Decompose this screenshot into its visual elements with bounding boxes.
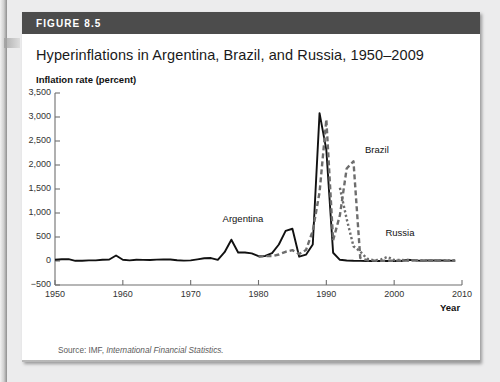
page-shadow: [4, 38, 20, 48]
x-tick-label: 1950: [35, 289, 75, 299]
y-tick-label: 3,000: [11, 111, 51, 121]
series-line-argentina: [55, 113, 455, 261]
page-edge: [0, 0, 7, 382]
y-tick-label: 0: [11, 255, 51, 265]
x-tick-label: 1970: [171, 289, 211, 299]
x-tick-label: 2000: [374, 289, 414, 299]
figure-title: Hyperinflations in Argentina, Brazil, an…: [22, 34, 480, 63]
chart-plot-area: 3,5003,0002,5002,0001,5001,0005000−500 1…: [22, 85, 480, 320]
x-axis-title: Year: [440, 302, 460, 313]
y-tick-label: 3,500: [11, 87, 51, 97]
figure-card: FIGURE 8.5 Hyperinflations in Argentina,…: [22, 12, 480, 362]
series-line-brazil: [259, 120, 456, 261]
annotation-brazil: Brazil: [365, 144, 389, 155]
source-prefix: Source: IMF,: [58, 346, 106, 355]
y-tick-label: −500: [11, 279, 51, 289]
x-tick-label: 1990: [306, 289, 346, 299]
annotation-argentina: Argentina: [223, 213, 264, 224]
figure-number-label: FIGURE 8.5: [22, 18, 101, 29]
chart-series: [55, 113, 455, 261]
y-tick-label: 500: [11, 231, 51, 241]
x-tick-label: 2010: [442, 289, 482, 299]
y-axis-title: Inflation rate (percent): [22, 63, 480, 85]
y-tick-label: 2,500: [11, 135, 51, 145]
page-bottom-rule: [22, 360, 480, 362]
chart-svg: [22, 85, 480, 320]
x-tick-label: 1960: [103, 289, 143, 299]
y-tick-label: 1,000: [11, 207, 51, 217]
y-tick-label: 2,000: [11, 159, 51, 169]
annotation-russia: Russia: [385, 227, 414, 238]
y-tick-label: 1,500: [11, 183, 51, 193]
x-tick-label: 1980: [239, 289, 279, 299]
figure-header-bar: FIGURE 8.5: [22, 12, 480, 34]
figure-source: Source: IMF, International Financial Sta…: [58, 346, 224, 355]
source-publication: International Financial Statistics.: [106, 346, 223, 355]
